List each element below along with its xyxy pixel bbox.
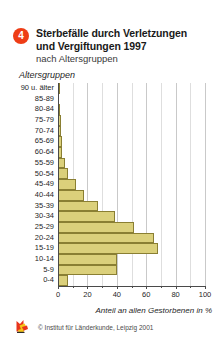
y-tick-label: 40-44 xyxy=(0,190,54,201)
bar-row xyxy=(58,104,205,115)
title-block: Sterbefälle durch Verletzungen und Vergi… xyxy=(36,27,211,65)
y-tick-label: 90 u. älter xyxy=(0,83,54,94)
y-tick-label: 65-69 xyxy=(0,136,54,147)
bar-5-9 xyxy=(58,265,117,276)
bar-15-19 xyxy=(58,243,158,254)
y-tick-label: 25-29 xyxy=(0,222,54,233)
bar-50-54 xyxy=(58,168,68,179)
page-subtitle: nach Altersgruppen xyxy=(36,53,211,65)
y-tick-label: 10-14 xyxy=(0,254,54,265)
x-tick-label: 60 xyxy=(142,290,150,299)
source-credit: © Institut für Länderkunde, Leipzig 2001 xyxy=(38,324,153,331)
y-tick-label: 85-89 xyxy=(0,94,54,105)
x-axis-label: Anteil an allen Gestorbenen in % xyxy=(0,306,212,315)
x-tick-mark xyxy=(117,286,118,289)
x-tick-label: 20 xyxy=(83,290,91,299)
bar-35-39 xyxy=(58,201,98,212)
bar-row xyxy=(58,211,205,222)
bar-55-59 xyxy=(58,158,65,169)
x-tick-mark-minor xyxy=(73,286,74,288)
x-tick-mark xyxy=(58,286,59,289)
bar-row xyxy=(58,233,205,244)
x-tick-mark-minor xyxy=(161,286,162,288)
ifl-fox-logo-svg xyxy=(14,318,34,337)
x-tick-mark-minor xyxy=(102,286,103,288)
y-axis-tick-labels: 90 u. älter85-8980-8475-7970-7465-6960-6… xyxy=(0,83,54,286)
y-tick-label: 70-74 xyxy=(0,126,54,137)
bar-row xyxy=(58,201,205,212)
bar-row xyxy=(58,190,205,201)
bar-series xyxy=(58,83,205,286)
chart-header: 4 Sterbefälle durch Verletzungen und Ver… xyxy=(13,27,211,65)
y-axis-label: Altersgruppen xyxy=(19,70,75,80)
y-tick-label: 5-9 xyxy=(0,265,54,276)
bar-0-4 xyxy=(58,275,68,286)
gridline-major xyxy=(205,83,206,286)
x-tick-mark-minor xyxy=(190,286,191,288)
bar-20-24 xyxy=(58,233,154,244)
bar-45-49 xyxy=(58,179,76,190)
y-tick-label: 60-64 xyxy=(0,147,54,158)
x-tick-label: 0 xyxy=(56,290,60,299)
y-tick-label: 55-59 xyxy=(0,158,54,169)
x-tick-mark-minor xyxy=(132,286,133,288)
x-tick-mark xyxy=(205,286,206,289)
bar-row xyxy=(58,222,205,233)
x-tick-mark xyxy=(146,286,147,289)
bar-row xyxy=(58,179,205,190)
x-tick-label: 80 xyxy=(171,290,179,299)
plot-area xyxy=(58,83,205,286)
bar-row xyxy=(58,126,205,137)
bar-row xyxy=(58,243,205,254)
x-tick-label: 40 xyxy=(113,290,121,299)
bar-25-29 xyxy=(58,222,134,233)
bar-row xyxy=(58,168,205,179)
y-tick-label: 50-54 xyxy=(0,169,54,180)
page-title-line-1: Sterbefälle durch Verletzungen xyxy=(36,27,211,40)
footer: © Institut für Länderkunde, Leipzig 2001 xyxy=(14,318,153,337)
x-tick-mark xyxy=(87,286,88,289)
bar-30-34 xyxy=(58,211,115,222)
x-tick-mark xyxy=(176,286,177,289)
bar-row xyxy=(58,147,205,158)
y-tick-label: 75-79 xyxy=(0,115,54,126)
bar-row xyxy=(58,254,205,265)
bar-row xyxy=(58,94,205,105)
bar-row xyxy=(58,136,205,147)
y-tick-label: 45-49 xyxy=(0,179,54,190)
y-tick-label: 35-39 xyxy=(0,201,54,212)
number-badge: 4 xyxy=(13,28,29,44)
y-axis-line xyxy=(58,83,59,286)
y-tick-label: 20-24 xyxy=(0,233,54,244)
ifl-fox-logo-icon xyxy=(14,318,34,337)
page-title-line-2: und Vergiftungen 1997 xyxy=(36,40,211,53)
x-tick-label: 100 xyxy=(199,290,212,299)
bar-row xyxy=(58,83,205,94)
bar-40-44 xyxy=(58,190,84,201)
x-axis-tick-labels: 020406080100 xyxy=(58,286,205,302)
infographic-card: 4 Sterbefälle durch Verletzungen und Ver… xyxy=(0,0,219,350)
y-tick-label: 30-34 xyxy=(0,211,54,222)
bar-row xyxy=(58,265,205,276)
bar-row xyxy=(58,115,205,126)
bar-row xyxy=(58,275,205,286)
bar-row xyxy=(58,158,205,169)
y-tick-label: 80-84 xyxy=(0,104,54,115)
y-tick-label: 0-4 xyxy=(0,275,54,286)
y-tick-label: 15-19 xyxy=(0,243,54,254)
bar-10-14 xyxy=(58,254,117,265)
